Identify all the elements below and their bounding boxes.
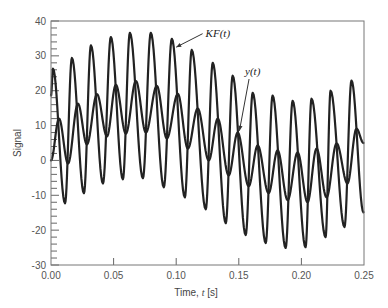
annotation-arrow xyxy=(239,79,249,131)
y-tick-label: 40 xyxy=(35,16,47,27)
x-tick-label: 0.00 xyxy=(41,270,61,281)
x-tick-label: 0.25 xyxy=(354,270,374,281)
x-axis-ticks: 0.000.050.100.150.200.25 xyxy=(41,258,374,281)
x-tick-label: 0.20 xyxy=(292,270,312,281)
x-tick-label: 0.05 xyxy=(104,270,124,281)
annotation-label: y(t) xyxy=(244,65,261,78)
y-axis-title: Signal xyxy=(12,129,23,157)
x-tick-label: 0.10 xyxy=(166,270,186,281)
y-tick-label: 10 xyxy=(35,120,47,131)
x-tick-label: 0.15 xyxy=(229,270,249,281)
x-axis-title-prefix: Time, xyxy=(174,287,201,298)
y-tick-label: -10 xyxy=(32,190,47,201)
y-tick-label: 0 xyxy=(40,155,46,166)
x-axis-title: Time, t [s] xyxy=(174,287,218,298)
y-tick-label: 20 xyxy=(35,85,47,96)
series-line-kf xyxy=(51,33,364,248)
x-axis-title-suffix: [s] xyxy=(204,287,218,298)
signal-chart: -30-20-10010203040 0.000.050.100.150.200… xyxy=(0,0,388,308)
series-layer xyxy=(51,33,364,248)
y-tick-label: -30 xyxy=(32,260,47,271)
y-tick-label: 30 xyxy=(35,50,47,61)
y-tick-label: -20 xyxy=(32,225,47,236)
annotation-label: KF(t) xyxy=(205,27,231,40)
